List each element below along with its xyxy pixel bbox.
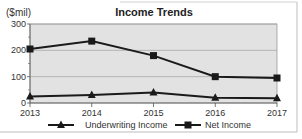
y-tick-label: 200 <box>11 45 26 55</box>
x-tick-label: 2014 <box>82 108 102 118</box>
chart-frame: ($mil) Income Trends 0100200300201320142… <box>0 0 302 139</box>
x-tick-label: 2016 <box>205 108 225 118</box>
income-trends-chart: ($mil) Income Trends 0100200300201320142… <box>0 0 302 139</box>
x-tick-label: 2017 <box>267 108 287 118</box>
y-axis-unit-label: ($mil) <box>6 7 31 18</box>
data-point-square <box>274 74 281 81</box>
data-point-square <box>27 46 34 53</box>
chart-title: Income Trends <box>115 6 193 18</box>
legend: Underwriting IncomeNet Income <box>48 120 251 130</box>
legend-label: Underwriting Income <box>85 120 168 130</box>
data-point-square <box>212 73 219 80</box>
data-point-square <box>88 38 95 45</box>
legend-label: Net Income <box>205 120 251 130</box>
y-tick-label: 0 <box>21 98 26 108</box>
x-tick-label: 2015 <box>143 108 163 118</box>
x-tick-label: 2013 <box>20 108 40 118</box>
legend-item: Net Income <box>175 120 251 130</box>
legend-marker-square <box>185 122 192 129</box>
legend-item: Underwriting Income <box>48 120 168 130</box>
data-point-square <box>150 52 157 59</box>
y-tick-label: 100 <box>11 72 26 82</box>
y-tick-label: 300 <box>11 19 26 29</box>
